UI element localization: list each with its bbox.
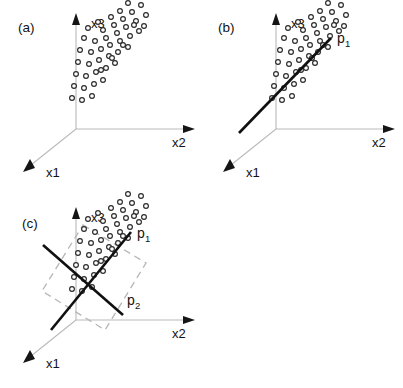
axis-x1: x1 (223, 129, 276, 180)
data-point (290, 94, 295, 99)
data-point (128, 225, 133, 230)
data-point (93, 230, 98, 235)
axis-arrowhead-x2 (183, 125, 195, 133)
data-point (97, 58, 102, 63)
data-point (137, 29, 142, 34)
data-point (318, 9, 323, 14)
data-point (315, 31, 320, 36)
data-point (289, 50, 294, 55)
data-point (101, 219, 106, 224)
data-point (94, 261, 99, 266)
data-point (80, 98, 85, 103)
axis-x2: x2 (276, 125, 395, 150)
scatter-group (70, 1, 149, 103)
axis-label-x2: x2 (172, 326, 186, 341)
data-point (113, 61, 118, 66)
axis-line-x1 (231, 129, 276, 165)
axis-x2: x2 (76, 316, 195, 341)
data-point (78, 48, 83, 53)
data-point (342, 24, 347, 29)
data-point (70, 96, 75, 101)
data-point (86, 26, 91, 31)
pc-subscript-p1: 1 (145, 233, 150, 244)
data-point (118, 200, 123, 205)
data-point (121, 234, 126, 239)
data-point (110, 56, 115, 61)
data-point (142, 215, 147, 220)
data-point (96, 20, 101, 25)
data-point (126, 192, 131, 197)
data-point (339, 3, 344, 8)
axis-line-x1 (31, 129, 76, 165)
data-point (101, 28, 106, 33)
data-point (72, 84, 77, 89)
data-point (326, 45, 331, 50)
data-point (89, 50, 94, 55)
pc-label-p1: p (137, 225, 145, 241)
data-point (109, 15, 114, 20)
scatter-group (270, 1, 349, 103)
data-point (121, 208, 126, 213)
axis-arrowhead-x1 (223, 159, 235, 172)
axis-label-x2: x2 (372, 135, 386, 150)
data-point (124, 216, 129, 221)
panel-label-a: (a) (18, 20, 35, 35)
axis-arrowhead-x3 (72, 207, 80, 219)
data-point (121, 17, 126, 22)
data-point (90, 94, 95, 99)
data-point (297, 58, 302, 63)
axis-x1: x1 (23, 320, 76, 371)
axis-arrowhead-x3 (72, 13, 80, 25)
data-point (76, 251, 81, 256)
data-point (282, 36, 287, 41)
axis-label-x1: x1 (46, 356, 60, 371)
pc-line-p1 (51, 232, 131, 330)
data-point (292, 82, 297, 87)
data-point (274, 72, 279, 77)
data-point (70, 287, 75, 292)
data-point (116, 50, 121, 55)
data-point (86, 217, 91, 222)
data-point (93, 39, 98, 44)
axis-label-x2: x2 (172, 135, 186, 150)
data-point (324, 25, 329, 30)
data-point (313, 61, 318, 66)
data-point (108, 234, 113, 239)
figure-canvas: x3x2x1(a)x3x2x1p1(b)x3x2x1p1p2(c) (0, 0, 403, 388)
axis-arrowhead-x2 (383, 125, 395, 133)
data-point (109, 206, 114, 211)
panel-label-b: (b) (218, 20, 235, 35)
data-point (272, 84, 277, 89)
data-point (321, 17, 326, 22)
data-point (299, 47, 304, 52)
data-point (132, 23, 137, 28)
data-point (115, 31, 120, 36)
data-point (92, 82, 97, 87)
pc-line-p1 (239, 38, 331, 133)
panel-c: x3x2x1p1p2(c) (22, 192, 195, 371)
axis-label-x1: x1 (46, 165, 60, 180)
axis-x2: x2 (76, 125, 195, 150)
data-point (308, 43, 313, 48)
data-point (124, 25, 129, 30)
data-point (99, 68, 104, 73)
data-point (132, 214, 137, 219)
data-point (99, 238, 104, 243)
panel-b: x3x2x1p1(b) (218, 1, 395, 180)
data-point (97, 249, 102, 254)
pc-subscript-p1: 1 (345, 38, 350, 49)
data-point (130, 10, 135, 15)
data-point (84, 265, 89, 270)
data-point (82, 227, 87, 232)
data-point (121, 43, 126, 48)
data-point (112, 214, 117, 219)
data-point (330, 10, 335, 15)
axis-arrowhead-x3 (272, 13, 280, 25)
data-point (74, 263, 79, 268)
data-point (144, 13, 149, 18)
data-point (87, 253, 92, 258)
pc-label-p2: p (127, 292, 135, 308)
pc-label-p1: p (337, 30, 345, 46)
data-point (78, 239, 83, 244)
panel-label-c: (c) (22, 216, 38, 231)
